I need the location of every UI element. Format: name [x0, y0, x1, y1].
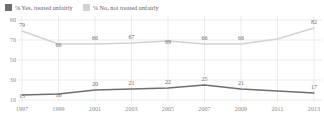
point-label: 22 — [160, 79, 176, 85]
x-tick-2007: 2007 — [194, 106, 216, 113]
point-label: 15 — [14, 93, 30, 99]
point-label: 25 — [197, 76, 213, 82]
point-label: 66 — [197, 35, 213, 41]
chart-legend: % Yes, treated unfairly % No, not treate… — [0, 0, 324, 15]
legend-swatch-yes-icon — [5, 4, 12, 11]
point-label: 20 — [87, 81, 103, 87]
legend-item-no[interactable]: % No, not treated unfairly — [83, 4, 159, 11]
y-tick-30: 30 — [2, 77, 16, 83]
point-label: 79 — [14, 22, 30, 28]
legend-label-yes: % Yes, treated unfairly — [15, 4, 73, 11]
point-label: 82 — [306, 19, 322, 25]
point-label: 21 — [124, 80, 140, 86]
x-tick-2005: 2005 — [157, 106, 179, 113]
point-label: 21 — [233, 80, 249, 86]
point-label: 17 — [306, 84, 322, 90]
point-label: 66 — [233, 35, 249, 41]
x-tick-2001: 2001 — [84, 106, 106, 113]
x-tick-2011: 2011 — [267, 106, 289, 113]
x-axis-tick-labels: 199719992001200320052007200920112013 — [0, 106, 324, 118]
x-tick-2009: 2009 — [230, 106, 252, 113]
point-label: 67 — [124, 34, 140, 40]
point-label: 66 — [51, 42, 67, 48]
point-label: 66 — [87, 35, 103, 41]
point-label: 16 — [51, 92, 67, 98]
point-label: 69 — [160, 39, 176, 45]
legend-swatch-no-icon — [83, 4, 90, 11]
y-tick-50: 50 — [2, 57, 16, 63]
vertical-gridlines — [22, 16, 314, 102]
x-tick-2013: 2013 — [303, 106, 324, 113]
x-tick-1999: 1999 — [48, 106, 70, 113]
y-tick-70: 70 — [2, 37, 16, 43]
chart-canvas — [0, 14, 324, 106]
legend-item-yes[interactable]: % Yes, treated unfairly — [5, 4, 73, 11]
x-tick-1997: 1997 — [11, 106, 33, 113]
legend-label-no: % No, not treated unfairly — [93, 4, 159, 11]
x-tick-2003: 2003 — [121, 106, 143, 113]
plot-area: 9070503010 79666667696666821516202122252… — [0, 14, 324, 106]
line-chart: % Yes, treated unfairly % No, not treate… — [0, 0, 324, 120]
